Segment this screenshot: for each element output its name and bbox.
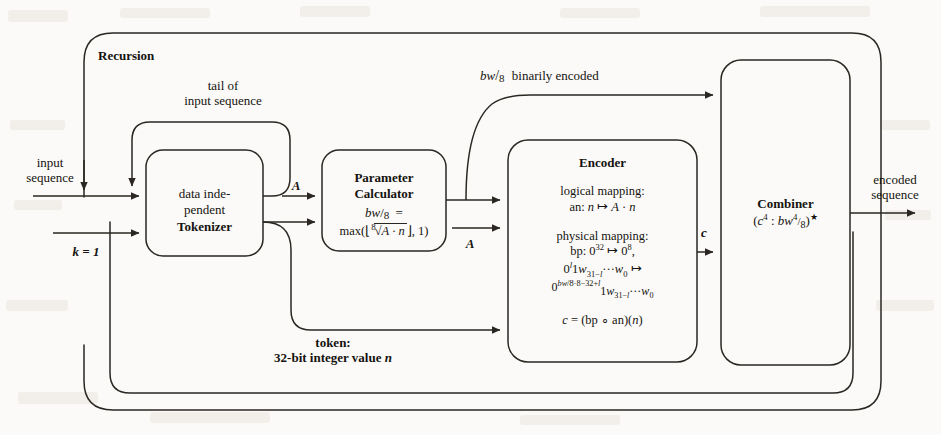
encoder-physical-line1: bp: 032 ↦ 08, [508, 244, 697, 260]
encoder-title: Encoder [508, 155, 697, 171]
parameter-calculator-block[interactable]: Parameter Calculator bw/8 = max(⌊8√A · n… [322, 170, 446, 240]
input-sequence-label: input sequence [14, 155, 86, 186]
token-label: token: 32-bit integer value n [238, 335, 428, 366]
token-label-line2: 32-bit integer value n [238, 350, 428, 365]
encoder-block[interactable]: Encoder logical mapping: an: n ↦ A · n p… [508, 155, 697, 329]
parameter-calculator-line2: Calculator [322, 186, 446, 202]
tokenizer-block[interactable]: data inde- pendent Tokenizer [146, 186, 263, 235]
token-label-line1: token: [238, 335, 428, 350]
tail-of-input-sequence-label: tail of input sequence [128, 78, 318, 109]
input-sequence-label-line1: input [14, 155, 86, 170]
bw-numerator: bw [480, 68, 495, 83]
tail-label-line2: input sequence [128, 93, 318, 108]
tail-label-line1: tail of [128, 78, 318, 93]
binarily-encoded-text: binarily encoded [512, 68, 599, 83]
pc-bw-den: 8 [384, 209, 390, 221]
parameter-calculator-line1: Parameter [322, 170, 446, 186]
input-sequence-label-line2: sequence [14, 170, 86, 185]
encoded-sequence-line1: encoded [856, 172, 934, 187]
combiner-formula: (c4 : bw4/8)★ [721, 213, 850, 232]
combiner-block[interactable]: Combiner (c4 : bw4/8)★ [721, 196, 850, 232]
tokenizer-line3: Tokenizer [146, 219, 263, 235]
diagram-canvas: Recursion input sequence k = 1 tail of i… [0, 0, 941, 435]
encoder-physical-line2: 0l1w31−l···w0 ↦ [508, 262, 697, 278]
recursion-label: Recursion [98, 48, 154, 63]
encoder-result: c = (bp ∘ an)(n) [508, 313, 697, 329]
pc-eq: = [396, 205, 403, 220]
A-label-top: A [288, 178, 304, 193]
c-label: c [697, 225, 711, 240]
parameter-calculator-formula-lhs: bw/8 = [322, 205, 446, 223]
encoder-logical-header: logical mapping: [508, 184, 697, 200]
k-parameter-label: k = 1 [58, 244, 114, 259]
pc-root-body: A · n [382, 224, 405, 238]
encoded-sequence-line2: sequence [856, 187, 934, 202]
pc-bw-num: bw [365, 205, 380, 220]
parameter-calculator-formula-rhs: max(⌊8√A · n⌋, 1) [322, 222, 446, 240]
tokenizer-line2: pendent [146, 202, 263, 218]
encoded-sequence-label: encoded sequence [856, 172, 934, 203]
tokenizer-line1: data inde- [146, 186, 263, 202]
bw-binarily-encoded-label: bw/8 binarily encoded [480, 68, 599, 85]
A-label-encoder: A [462, 236, 478, 251]
encoder-logical-body: an: n ↦ A · n [508, 200, 697, 216]
encoder-physical-line3: 0bw/8·8−32+l1w31−l···w0 [508, 280, 697, 299]
bw-denominator: 8 [499, 72, 505, 84]
combiner-title: Combiner [721, 196, 850, 212]
